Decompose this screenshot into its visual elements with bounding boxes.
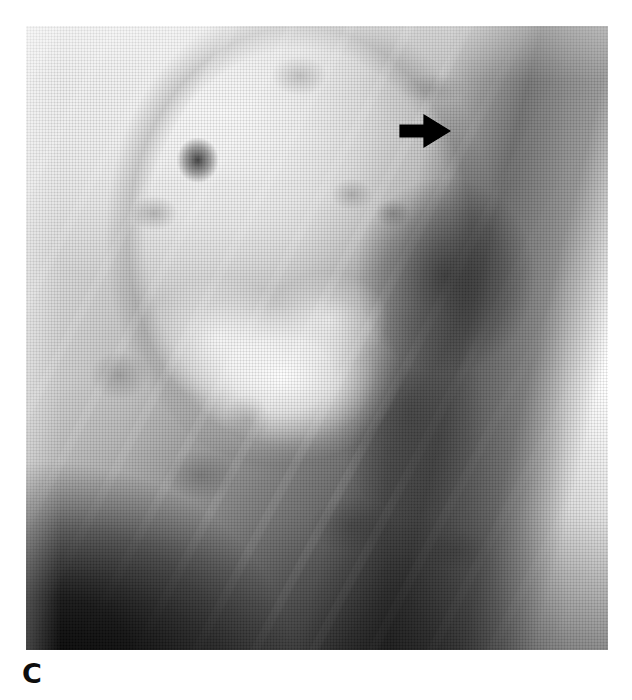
film-edge-fade [26, 26, 608, 650]
chest-radiograph [26, 26, 608, 650]
arrow-marker-icon [399, 113, 451, 149]
panel-label: C [22, 660, 42, 687]
figure-panel: C [0, 0, 632, 700]
